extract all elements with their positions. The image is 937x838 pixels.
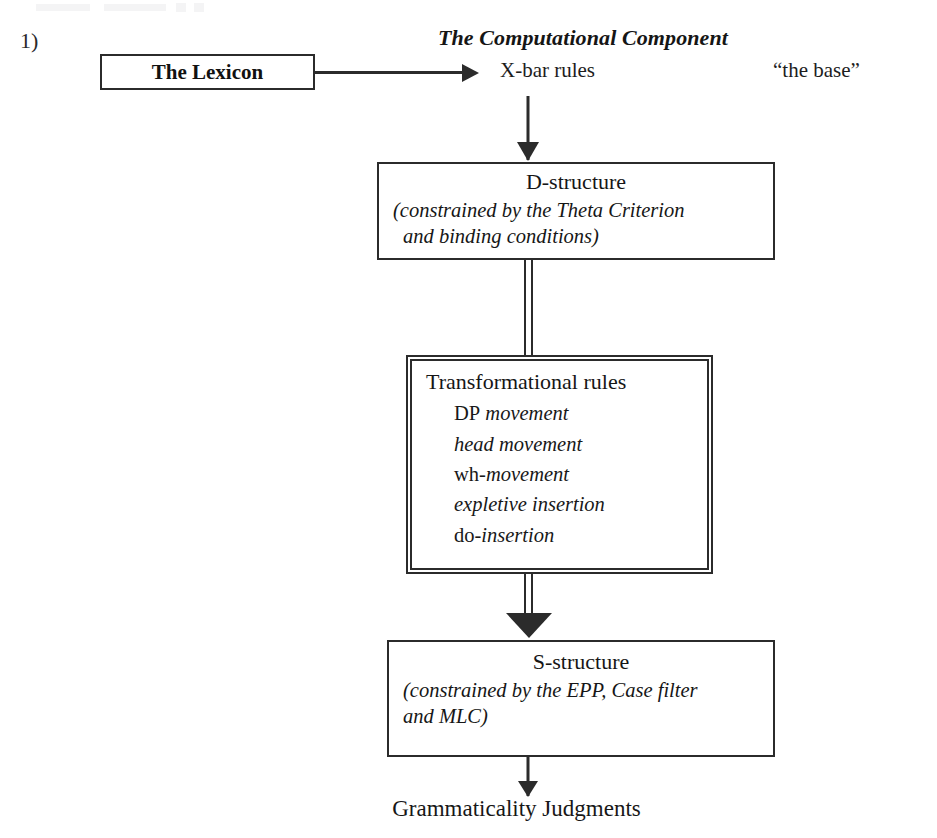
diagram-canvas: 1) The Computational Component The Lexic… <box>0 0 937 838</box>
rule-term-italic: movement <box>480 402 568 424</box>
scan-artifact <box>36 4 90 11</box>
section-title: The Computational Component <box>438 26 728 50</box>
s-structure-headline: S-structure <box>403 650 759 675</box>
rule-term-italic: expletive insertion <box>454 493 605 515</box>
d-structure-headline: D-structure <box>393 170 759 195</box>
d-structure-note-line-2: and binding conditions) <box>393 223 759 250</box>
transformational-inner-frame: Transformational rules DP movementhead m… <box>410 359 709 570</box>
arrow-xbar-to-d-structure <box>516 96 540 160</box>
s-structure-box: S-structure (constrained by the EPP, Cas… <box>387 640 775 757</box>
rule-term-italic: movement <box>486 463 569 485</box>
rule-term-upright: do <box>454 524 475 546</box>
transformational-rule-item: DP movement <box>454 398 697 428</box>
scan-artifact <box>176 3 186 12</box>
d-structure-note-line-1: (constrained by the Theta Criterion <box>393 197 759 224</box>
rule-term-upright: DP <box>454 402 480 424</box>
s-structure-note-line-2: and MLC) <box>403 703 759 730</box>
output-label-wrap: Grammaticality Judgments <box>0 796 937 821</box>
connector-rail <box>531 260 533 368</box>
xbar-rules-label: X-bar rules <box>500 59 595 82</box>
arrow-s-structure-to-output <box>516 757 540 796</box>
connector-rail <box>524 260 526 368</box>
d-structure-note: (constrained by the Theta Criterion and … <box>393 197 759 250</box>
scan-artifact <box>104 4 166 11</box>
scan-artifact <box>194 3 204 12</box>
transformational-headline: Transformational rules <box>426 369 697 394</box>
transformational-rule-item: head movement <box>454 429 697 459</box>
connector-d-structure-to-transformational <box>524 260 533 368</box>
arrow-head-icon <box>518 781 538 797</box>
transformational-rules-box: Transformational rules DP movementhead m… <box>406 355 713 574</box>
s-structure-note-line-1: (constrained by the EPP, Case filter <box>403 677 759 704</box>
arrow-head-icon <box>462 64 479 82</box>
transformational-rule-item: do-insertion <box>454 520 697 550</box>
connector-transformational-to-s-structure <box>524 574 533 637</box>
transformational-rule-list: DP movementhead movementwh-movementexple… <box>426 398 697 550</box>
grammaticality-judgments-label: Grammaticality Judgments <box>392 796 640 821</box>
the-base-annotation: “the base” <box>773 59 860 82</box>
lexicon-label: The Lexicon <box>152 62 263 83</box>
rule-term-italic: head movement <box>454 433 582 455</box>
transformational-rule-item: wh-movement <box>454 459 697 489</box>
lexicon-box: The Lexicon <box>100 54 315 90</box>
arrow-head-icon <box>506 613 552 638</box>
d-structure-box: D-structure (constrained by the Theta Cr… <box>377 162 775 260</box>
rule-term-italic: -insertion <box>475 524 555 546</box>
transformational-rule-item: expletive insertion <box>454 489 697 519</box>
arrow-shaft <box>315 71 463 74</box>
s-structure-note: (constrained by the EPP, Case filter and… <box>403 677 759 730</box>
arrow-head-icon <box>517 142 539 161</box>
item-number: 1) <box>20 30 38 52</box>
arrow-lexicon-to-xbar <box>315 71 463 74</box>
rule-term-upright: wh- <box>454 463 486 485</box>
